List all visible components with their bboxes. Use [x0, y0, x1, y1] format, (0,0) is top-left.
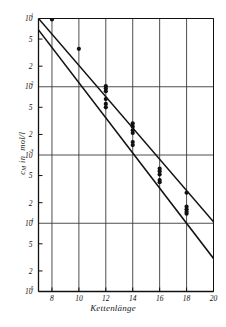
- semilog-scatter-plot: 10-15210-25210-35210-45210-5810121416182…: [0, 0, 226, 327]
- data-point: [104, 97, 108, 101]
- data-point: [50, 17, 54, 21]
- y-tick-label: 5: [29, 240, 33, 249]
- y-axis-label: cM in mol/l: [17, 107, 28, 199]
- x-axis-label: Kettenlänge: [0, 303, 226, 313]
- x-tick-label: 18: [183, 294, 191, 303]
- x-tick-label: 14: [129, 294, 137, 303]
- y-axis-subscript: M: [21, 165, 27, 170]
- x-tick-label: 16: [156, 294, 164, 303]
- x-tick-label: 20: [210, 294, 218, 303]
- y-tick-label: 2: [29, 130, 33, 139]
- fit-line: [39, 30, 214, 259]
- y-tick-label: 2: [29, 267, 33, 276]
- y-tick-exponent: -4: [29, 217, 34, 223]
- y-tick-exponent: -1: [29, 12, 34, 18]
- y-axis-middle-word: in: [17, 156, 27, 163]
- y-tick-exponent: -2: [29, 80, 34, 86]
- x-tick-label: 12: [102, 294, 110, 303]
- x-tick-label: 10: [75, 294, 83, 303]
- data-point: [104, 89, 108, 93]
- y-tick-exponent: -5: [29, 285, 34, 291]
- y-tick-label: 5: [29, 103, 33, 112]
- data-point: [158, 180, 162, 184]
- y-tick-label: 2: [29, 62, 33, 71]
- y-axis-symbol: c: [17, 171, 27, 175]
- data-point: [184, 191, 188, 195]
- data-point: [184, 212, 188, 216]
- data-point: [131, 125, 135, 129]
- y-axis-unit: mol/l: [17, 132, 27, 151]
- plot-content: [39, 17, 214, 258]
- data-point: [158, 172, 162, 176]
- y-tick-label: 5: [29, 171, 33, 180]
- chart-figure: 10-15210-25210-35210-45210-5810121416182…: [0, 0, 226, 327]
- y-tick-label: 2: [29, 199, 33, 208]
- y-tick-label: 5: [29, 35, 33, 44]
- x-tick-label: 8: [50, 294, 54, 303]
- data-point: [104, 105, 108, 109]
- data-point: [77, 47, 81, 51]
- y-tick-exponent: -3: [29, 148, 34, 154]
- data-point: [131, 143, 135, 147]
- data-point: [131, 131, 135, 135]
